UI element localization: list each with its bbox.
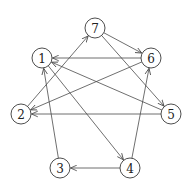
node-label: 6 — [147, 52, 155, 66]
node-1: 1 — [32, 48, 52, 68]
node-label: 5 — [167, 108, 175, 122]
edge-4-to-6 — [132, 68, 149, 158]
node-3: 3 — [50, 158, 70, 178]
edge-2-to-7 — [28, 36, 89, 106]
node-4: 4 — [120, 158, 140, 178]
node-7: 7 — [85, 18, 105, 38]
node-2: 2 — [11, 104, 31, 124]
node-label: 3 — [56, 162, 64, 176]
edge-7-to-5 — [102, 35, 164, 106]
edge-6-to-2 — [31, 62, 142, 110]
edge-7-to-6 — [104, 33, 142, 53]
edge-3-to-1 — [44, 68, 59, 158]
edge-1-to-4 — [48, 66, 123, 160]
node-label: 2 — [17, 108, 25, 122]
node-label: 4 — [126, 162, 134, 176]
node-label: 1 — [38, 52, 46, 66]
node-6: 6 — [141, 48, 161, 68]
node-5: 5 — [161, 104, 181, 124]
directed-graph: 1234567 — [0, 0, 192, 186]
nodes-layer: 1234567 — [11, 18, 181, 178]
node-label: 7 — [91, 22, 99, 36]
